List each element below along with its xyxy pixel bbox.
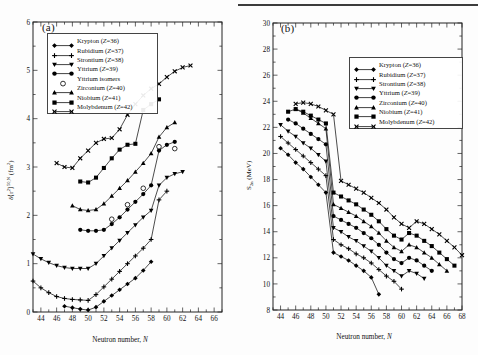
panel-b-legend-item-2: Strontium (Z=38) bbox=[352, 79, 459, 88]
svg-text:52: 52 bbox=[100, 315, 108, 323]
plus-icon bbox=[352, 70, 378, 79]
svg-text:58: 58 bbox=[383, 313, 391, 321]
svg-text:64: 64 bbox=[195, 315, 203, 323]
svg-text:48: 48 bbox=[307, 313, 315, 321]
svg-text:64: 64 bbox=[428, 313, 436, 321]
panel-b-tag: (b) bbox=[281, 22, 294, 34]
panel-b-xaxis-title: Neutron number, N bbox=[304, 333, 424, 341]
panel-b-legend-label-4: Zirconium (Z=40) bbox=[378, 99, 427, 106]
svg-text:10: 10 bbox=[263, 281, 271, 289]
svg-text:6: 6 bbox=[26, 19, 30, 27]
svg-text:56: 56 bbox=[368, 313, 376, 321]
svg-text:5: 5 bbox=[26, 67, 30, 75]
panel-b-xlabel-symbol: N bbox=[387, 333, 392, 341]
panel-a-legend-item-7: Molybdenum (Z=42) bbox=[50, 102, 154, 111]
svg-text:12: 12 bbox=[263, 254, 271, 262]
svg-text:20: 20 bbox=[263, 150, 271, 158]
svg-text:24: 24 bbox=[263, 98, 271, 106]
diamond-icon bbox=[352, 60, 378, 69]
circle-icon bbox=[352, 88, 378, 97]
svg-text:0: 0 bbox=[26, 309, 30, 317]
svg-text:44: 44 bbox=[37, 315, 45, 323]
svg-text:28: 28 bbox=[263, 46, 271, 54]
figure-container: 4446485052545658606264660123456 (a) Kryp… bbox=[0, 0, 478, 355]
panel-a-tag: (a) bbox=[42, 21, 55, 33]
panel-a-xaxis-title: Neutron number, N bbox=[60, 336, 180, 344]
svg-text:46: 46 bbox=[292, 313, 300, 321]
diamond-icon bbox=[50, 36, 76, 45]
svg-text:66: 66 bbox=[211, 315, 219, 323]
svg-text:46: 46 bbox=[53, 315, 61, 323]
triangle-up-icon bbox=[352, 98, 378, 107]
panel-a-legend: Krypton (Z=36)Rubidium (Z=37)Strontium (… bbox=[47, 33, 158, 114]
triangle-up-icon bbox=[50, 83, 76, 92]
panel-a-legend-label-7: Molybdenum (Z=42) bbox=[76, 103, 133, 110]
svg-text:22: 22 bbox=[263, 124, 271, 132]
svg-text:44: 44 bbox=[277, 313, 285, 321]
panel-a-legend-item-0: Krypton (Z=36) bbox=[50, 36, 154, 45]
panel-b-plot: 4446485052545658606264666881012141618202… bbox=[239, 0, 478, 355]
square-icon bbox=[352, 107, 378, 116]
panel-b-yaxis-title: S2n (MeV) bbox=[245, 161, 254, 190]
svg-text:54: 54 bbox=[116, 315, 124, 323]
panel-a-legend-item-5: Zirconium (Z=40) bbox=[50, 83, 154, 92]
plus-icon bbox=[50, 46, 76, 55]
panel-a-legend-label-0: Krypton (Z=36) bbox=[76, 37, 119, 44]
svg-text:60: 60 bbox=[398, 313, 406, 321]
panel-a-legend-label-1: Rubidium (Z=37) bbox=[76, 47, 123, 54]
svg-text:60: 60 bbox=[163, 315, 171, 323]
panel-a-legend-item-6: Niobium (Z=41) bbox=[50, 92, 154, 101]
svg-text:68: 68 bbox=[458, 313, 466, 321]
svg-text:2: 2 bbox=[26, 212, 30, 220]
panel-b-legend-label-3: Yttrium (Z=39) bbox=[378, 89, 420, 96]
panel-a-legend-label-3: Yttrium (Z=39) bbox=[76, 65, 118, 72]
svg-text:58: 58 bbox=[148, 315, 156, 323]
panel-a-legend-item-1: Rubidium (Z=37) bbox=[50, 45, 154, 54]
panel-a-legend-item-4: Yttrium isomers bbox=[50, 74, 154, 83]
panel-a-legend-label-6: Niobium (Z=41) bbox=[76, 94, 120, 101]
panel-b-legend-label-2: Strontium (Z=38) bbox=[378, 80, 425, 87]
panel-a-legend-item-2: Strontium (Z=38) bbox=[50, 55, 154, 64]
panel-b-legend-label-0: Krypton (Z=36) bbox=[378, 61, 421, 68]
svg-text:54: 54 bbox=[353, 313, 361, 321]
panel-a: 4446485052545658606264660123456 (a) Kryp… bbox=[0, 0, 239, 355]
panel-b-legend-item-0: Krypton (Z=36) bbox=[352, 60, 459, 69]
panel-b-legend-item-1: Rubidium (Z=37) bbox=[352, 69, 459, 78]
svg-text:26: 26 bbox=[263, 72, 271, 80]
svg-text:16: 16 bbox=[263, 202, 271, 210]
panel-a-legend-label-5: Zirconium (Z=40) bbox=[76, 84, 125, 91]
square-icon bbox=[50, 93, 76, 102]
svg-text:1: 1 bbox=[26, 260, 30, 268]
svg-text:62: 62 bbox=[179, 315, 187, 323]
svg-text:52: 52 bbox=[337, 313, 345, 321]
panel-b-legend-label-5: Niobium (Z=41) bbox=[378, 108, 422, 115]
svg-text:48: 48 bbox=[69, 315, 77, 323]
panel-a-yaxis-title: δ⟨r2⟩50,N (fm2) bbox=[6, 160, 15, 200]
svg-text:14: 14 bbox=[263, 228, 271, 236]
panel-b-legend-item-6: Molybdenum (Z=42) bbox=[352, 116, 459, 125]
cross-icon bbox=[50, 102, 76, 111]
panel-b-legend-label-6: Molybdenum (Z=42) bbox=[378, 118, 435, 125]
panel-a-legend-item-3: Yttrium (Z=39) bbox=[50, 64, 154, 73]
panel-b-legend-item-5: Niobium (Z=41) bbox=[352, 107, 459, 116]
panel-b-legend: Krypton (Z=36)Rubidium (Z=37)Strontium (… bbox=[349, 57, 463, 129]
svg-text:3: 3 bbox=[26, 164, 30, 172]
panel-b-legend-item-4: Zirconium (Z=40) bbox=[352, 98, 459, 107]
svg-text:66: 66 bbox=[443, 313, 451, 321]
open-circle-icon bbox=[50, 74, 76, 83]
svg-text:8: 8 bbox=[266, 307, 270, 315]
panel-a-xlabel-symbol: N bbox=[143, 336, 148, 344]
triangle-down-icon bbox=[352, 79, 378, 88]
circle-icon bbox=[50, 64, 76, 73]
triangle-down-icon bbox=[50, 55, 76, 64]
svg-text:30: 30 bbox=[263, 20, 271, 28]
panel-b-legend-label-1: Rubidium (Z=37) bbox=[378, 71, 425, 78]
svg-text:62: 62 bbox=[413, 313, 421, 321]
panel-a-legend-label-2: Strontium (Z=38) bbox=[76, 56, 123, 63]
panel-b-legend-item-3: Yttrium (Z=39) bbox=[352, 88, 459, 97]
panel-a-xlabel-text: Neutron number, bbox=[92, 336, 143, 344]
cross-icon bbox=[352, 117, 378, 126]
svg-text:50: 50 bbox=[322, 313, 330, 321]
panel-a-legend-label-4: Yttrium isomers bbox=[76, 75, 120, 82]
panel-b: 4446485052545658606264666881012141618202… bbox=[239, 0, 478, 355]
